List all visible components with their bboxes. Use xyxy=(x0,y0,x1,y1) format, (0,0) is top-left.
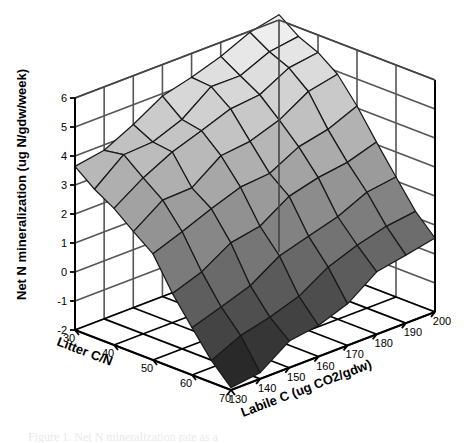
y-tick-label: 180 xyxy=(375,337,393,349)
z-tick-label: 5 xyxy=(61,121,67,133)
z-tick-label: -1 xyxy=(57,295,67,307)
z-tick-label: 4 xyxy=(61,150,67,162)
z-tick-label: 1 xyxy=(61,237,67,249)
x-tick-label: 50 xyxy=(141,362,153,374)
x-tick-label: 60 xyxy=(180,377,192,389)
z-tick-label: 0 xyxy=(61,266,67,278)
surface-plot: -2-10123456 3040506070 13014015016017018… xyxy=(0,0,464,443)
z-tick-label: 3 xyxy=(61,179,67,191)
y-tick-label: 190 xyxy=(404,326,422,338)
z-tick-label: 2 xyxy=(61,208,67,220)
figure-container: -2-10123456 3040506070 13014015016017018… xyxy=(0,0,464,443)
y-tick-label: 200 xyxy=(433,315,451,327)
z-tick-label: 6 xyxy=(61,92,67,104)
z-axis-label: Net N mineralization (ug N/gdw/week) xyxy=(14,69,29,300)
z-axis-ticks: -2-10123456 xyxy=(57,92,76,336)
figure-caption: Figure 1. Net N mineralization rate as a xyxy=(28,430,436,443)
